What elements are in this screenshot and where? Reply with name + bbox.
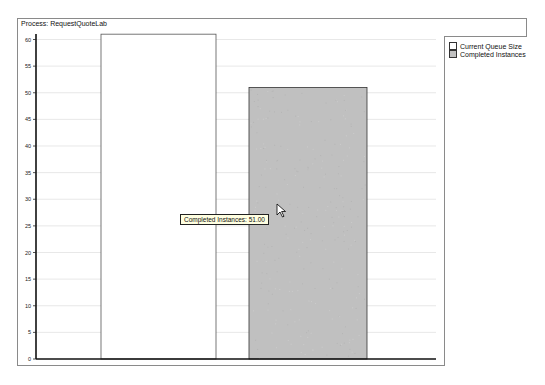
bar-texture xyxy=(299,160,300,161)
bar-texture xyxy=(304,230,305,231)
bar-texture xyxy=(342,333,343,334)
bar-texture xyxy=(357,319,358,320)
bar-texture xyxy=(301,221,302,222)
bar-texture xyxy=(308,170,309,171)
bar-texture xyxy=(333,262,334,263)
bar-texture xyxy=(256,149,257,150)
bar-texture xyxy=(351,222,352,223)
bar-texture xyxy=(344,235,345,236)
bar-texture xyxy=(294,321,295,322)
bar-texture xyxy=(351,201,352,202)
bar-texture xyxy=(268,291,269,292)
bar-texture xyxy=(311,121,312,122)
bar-texture xyxy=(302,213,303,214)
bar-texture xyxy=(344,100,345,101)
bar-texture xyxy=(311,301,312,302)
bar-texture xyxy=(251,90,252,91)
bar-texture xyxy=(334,188,335,189)
bar-texture xyxy=(301,93,302,94)
bar-texture xyxy=(251,123,252,124)
bar-texture xyxy=(286,234,287,235)
bar-texture xyxy=(287,110,288,111)
bar-texture xyxy=(313,350,314,351)
bar-texture xyxy=(269,278,270,279)
bar-texture xyxy=(341,344,342,345)
bar-texture xyxy=(285,94,286,95)
legend-item-completed-instances[interactable]: Completed Instances xyxy=(449,50,526,58)
bar-texture xyxy=(303,344,304,345)
bar-texture xyxy=(324,226,325,227)
bar-texture xyxy=(267,247,268,248)
bar-texture xyxy=(253,310,254,311)
bar-texture xyxy=(258,119,259,120)
bar-texture xyxy=(272,294,273,295)
bar-texture xyxy=(299,121,300,122)
bar-texture xyxy=(345,110,346,111)
bar-texture xyxy=(258,100,259,101)
bar-texture xyxy=(345,326,346,327)
legend-item-current-queue-size[interactable]: Current Queue Size xyxy=(449,42,522,50)
bar-texture xyxy=(344,241,345,242)
bar-texture xyxy=(274,111,275,112)
bar-texture xyxy=(351,124,352,125)
bar-texture xyxy=(305,354,306,355)
bar-texture xyxy=(264,244,265,245)
bar-texture xyxy=(255,207,256,208)
bar-texture xyxy=(266,161,267,162)
y-tick-label: 30 xyxy=(25,196,31,202)
y-tick-label: 45 xyxy=(25,116,31,122)
bar-texture xyxy=(306,332,307,333)
y-tick-label: 5 xyxy=(28,329,31,335)
bar-texture xyxy=(345,118,346,119)
bar-texture xyxy=(353,133,354,134)
bar-texture xyxy=(343,206,344,207)
bar-texture xyxy=(263,148,264,149)
bar-texture xyxy=(352,307,353,308)
bar-texture xyxy=(302,283,303,284)
bar-texture xyxy=(255,340,256,341)
bar-texture xyxy=(253,122,254,123)
bar-texture xyxy=(340,345,341,346)
bar-texture xyxy=(361,96,362,97)
bar-texture xyxy=(338,173,339,174)
bar-texture xyxy=(308,330,309,331)
bar-texture xyxy=(331,155,332,156)
bar-texture xyxy=(277,193,278,194)
bar-texture xyxy=(279,289,280,290)
bar-texture xyxy=(259,186,260,187)
bar-texture xyxy=(270,168,271,169)
bar-texture xyxy=(262,272,263,273)
bar-texture xyxy=(298,116,299,117)
bar-texture xyxy=(343,160,344,161)
bar-texture xyxy=(299,319,300,320)
bar-texture xyxy=(338,166,339,167)
bar-texture xyxy=(342,197,343,198)
bar-texture xyxy=(289,204,290,205)
bar-texture xyxy=(334,144,335,145)
bar-texture xyxy=(297,171,298,172)
bar-texture xyxy=(297,207,298,208)
bar-texture xyxy=(349,340,350,341)
y-tick-label: 40 xyxy=(25,143,31,149)
bar-texture xyxy=(288,340,289,341)
bar-texture xyxy=(307,146,308,147)
legend-label: Current Queue Size xyxy=(460,43,522,50)
bar-texture xyxy=(261,175,262,176)
bar-texture xyxy=(301,352,302,353)
y-tick-label: 35 xyxy=(25,170,31,176)
bar-texture xyxy=(363,161,364,162)
bar-texture xyxy=(276,347,277,348)
bar-texture xyxy=(359,293,360,294)
bar-texture xyxy=(336,282,337,283)
legend-label: Completed Instances xyxy=(460,51,526,58)
bar-texture xyxy=(321,168,322,169)
bar-texture xyxy=(352,352,353,353)
bar-texture xyxy=(349,147,350,148)
bar-texture xyxy=(337,101,338,102)
bar-texture xyxy=(302,242,303,243)
bar-texture xyxy=(332,225,333,226)
bar-texture xyxy=(329,279,330,280)
bar-texture xyxy=(267,118,268,119)
bar-texture xyxy=(333,222,334,223)
y-tick-label: 15 xyxy=(25,276,31,282)
